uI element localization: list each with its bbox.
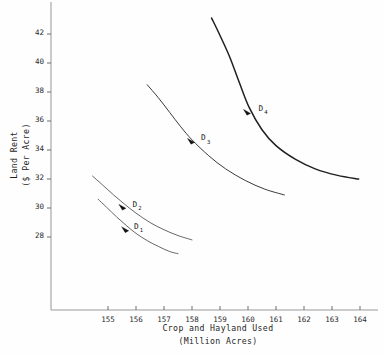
y-axis-tick-label: 28 bbox=[35, 231, 45, 240]
curve-marker-arrow-d4 bbox=[243, 109, 250, 115]
curve-label-subscript-d1: 1 bbox=[140, 227, 143, 233]
x-axis-title-line1: Crop and Hayland Used bbox=[163, 323, 274, 333]
curve-label-d1: D bbox=[134, 222, 139, 231]
curve-label-subscript-d4: 4 bbox=[264, 109, 268, 115]
demand-curve-d4 bbox=[212, 18, 359, 179]
x-axis-tick-label: 163 bbox=[325, 315, 339, 324]
x-axis-tick-label: 164 bbox=[353, 315, 367, 324]
curve-label-d2: D bbox=[133, 200, 138, 209]
curve-label-subscript-d2: 2 bbox=[138, 205, 141, 211]
y-axis-tick-label: 42 bbox=[35, 28, 44, 37]
x-axis-title-line2: (Million Acres) bbox=[178, 336, 257, 346]
demand-curve-d3 bbox=[147, 85, 284, 195]
x-axis-tick-label: 156 bbox=[129, 315, 143, 324]
curve-marker-arrow-d2 bbox=[119, 204, 126, 210]
y-axis-title-line1: Land Rent bbox=[9, 131, 19, 179]
y-axis-tick-label: 36 bbox=[35, 115, 45, 124]
axis-tick-labels: 4240383634323028155156157158159160161162… bbox=[35, 28, 367, 324]
curve-labels: D1D2D3D4 bbox=[133, 104, 269, 233]
chart-container: 4240383634323028155156157158159160161162… bbox=[0, 0, 384, 355]
curve-label-d3: D bbox=[201, 133, 206, 142]
axis-titles: Crop and Hayland Used(Million Acres)Land… bbox=[9, 123, 273, 346]
curve-marker-arrow-d1 bbox=[122, 227, 129, 233]
y-axis-tick-label: 40 bbox=[35, 57, 45, 66]
axes bbox=[51, 2, 378, 310]
y-axis-tick-label: 38 bbox=[35, 86, 45, 95]
y-axis-tick-label: 30 bbox=[35, 202, 45, 211]
demand-curves bbox=[93, 18, 359, 254]
x-axis-tick-label: 162 bbox=[297, 315, 311, 324]
y-axis-tick-label: 34 bbox=[35, 144, 45, 153]
curve-markers bbox=[119, 109, 251, 232]
axis-ticks bbox=[47, 34, 360, 310]
chart-plot-area: 4240383634323028155156157158159160161162… bbox=[0, 0, 384, 355]
x-axis-tick-label: 155 bbox=[101, 315, 115, 324]
curve-label-d4: D bbox=[259, 104, 264, 113]
y-axis-title-line2: ($ Per Acre) bbox=[21, 123, 31, 186]
curve-label-subscript-d3: 3 bbox=[207, 139, 210, 145]
y-axis-tick-label: 32 bbox=[35, 173, 44, 182]
